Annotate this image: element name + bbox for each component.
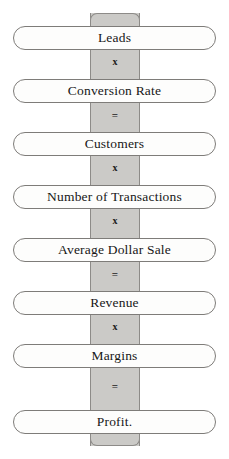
node-label: Customers	[85, 137, 145, 151]
operator-equals: =	[90, 380, 140, 392]
node-pill: Leads	[13, 26, 216, 50]
node-label: Profit.	[97, 415, 133, 429]
node-pill: Revenue	[13, 291, 216, 315]
node-pill: Number of Transactions	[13, 185, 216, 209]
operator-equals: =	[90, 109, 140, 121]
node-label: Number of Transactions	[47, 190, 182, 204]
operator-equals: =	[90, 268, 140, 280]
node-label: Average Dollar Sale	[58, 243, 171, 257]
operator-multiply: x	[90, 56, 140, 68]
operator-multiply: x	[90, 215, 140, 227]
node-label: Conversion Rate	[68, 84, 161, 98]
profit-equation-diagram: x=xx=x= LeadsConversion RateCustomersNum…	[0, 0, 229, 459]
node-pill: Conversion Rate	[13, 79, 216, 103]
operator-multiply: x	[90, 321, 140, 333]
operator-multiply: x	[90, 162, 140, 174]
node-pill: Average Dollar Sale	[13, 238, 216, 262]
node-pill: Profit.	[13, 410, 216, 434]
node-pill: Customers	[13, 132, 216, 156]
node-label: Revenue	[90, 296, 139, 310]
node-label: Leads	[98, 31, 131, 45]
node-label: Margins	[91, 349, 137, 363]
node-pill: Margins	[13, 344, 216, 368]
